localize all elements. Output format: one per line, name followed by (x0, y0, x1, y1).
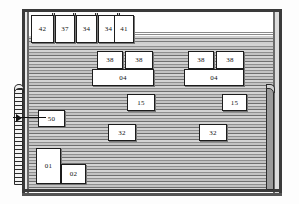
stall-37[interactable]: 37 (55, 15, 75, 43)
item-04-left[interactable]: 04 (92, 69, 154, 86)
item-01[interactable]: 01 (36, 148, 61, 184)
item-38-4[interactable]: 38 (216, 51, 244, 69)
item-02[interactable]: 02 (61, 164, 86, 184)
item-38-2[interactable]: 38 (125, 51, 153, 69)
item-15-right[interactable]: 15 (222, 94, 247, 111)
top-right-band (124, 13, 273, 32)
item-50[interactable]: 50 (38, 110, 65, 127)
stall-34a[interactable]: 34 (76, 15, 97, 43)
item-38-3[interactable]: 38 (188, 51, 214, 69)
wall-right (279, 9, 282, 196)
entry-arrow-icon (16, 114, 22, 122)
wall-right-gap (275, 9, 279, 196)
wall-bottom-inner (22, 193, 282, 196)
stall-41[interactable]: 41 (114, 15, 134, 43)
stall-42[interactable]: 42 (31, 15, 54, 43)
floor-plan-diagram: 4237343441 38383838040415155032320102 (0, 0, 299, 204)
corner-post (266, 88, 274, 190)
item-04-right[interactable]: 04 (184, 69, 244, 86)
wall-bottom (22, 189, 282, 192)
top-right-band-lines (124, 31, 273, 35)
wall-top (22, 9, 282, 12)
item-38-1[interactable]: 38 (97, 51, 123, 69)
item-32-right[interactable]: 32 (199, 124, 227, 141)
item-15-left[interactable]: 15 (127, 94, 155, 111)
access-rail[interactable] (14, 88, 23, 185)
item-32-left[interactable]: 32 (108, 124, 136, 141)
